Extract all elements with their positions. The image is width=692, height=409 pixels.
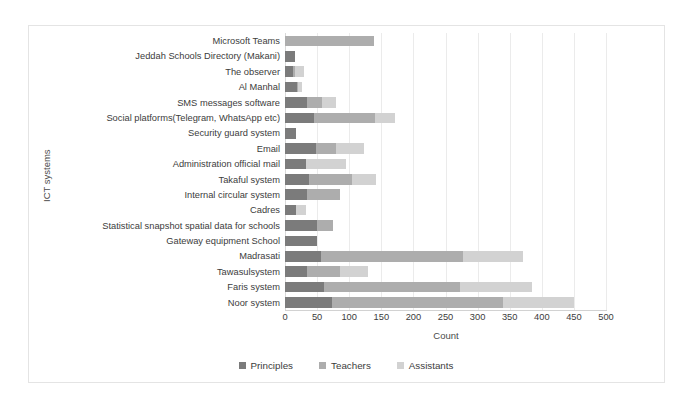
bar-segment[interactable] [285,189,307,200]
x-tick-label: 400 [534,312,550,322]
legend-item[interactable]: Assistants [397,360,454,371]
category-label: Email [257,141,280,157]
bar-segment[interactable] [309,174,352,185]
bar-segment[interactable] [285,36,374,47]
category-label: Social platforms(Telegram, WhatsApp etc) [106,110,280,126]
bar-segment[interactable] [316,143,337,154]
x-tick-label: 350 [502,312,518,322]
bar-segment[interactable] [285,251,321,262]
legend-swatch-icon [319,362,326,369]
bar-segment[interactable] [285,128,296,139]
bar-segment[interactable] [306,159,346,170]
bar-segment[interactable] [307,97,322,108]
bar-segment[interactable] [463,251,522,262]
legend-label: Principles [251,360,293,371]
bar-row[interactable] [285,202,606,218]
legend-swatch-icon [397,362,404,369]
bar-row[interactable] [285,248,606,264]
bar-row[interactable] [285,172,606,188]
legend-item[interactable]: Principles [239,360,293,371]
bar-row[interactable] [285,125,606,141]
bar-segment[interactable] [285,205,296,216]
bar-segment[interactable] [285,297,332,308]
x-tick-label: 200 [406,312,422,322]
category-label: The observer [225,64,280,80]
bar-row[interactable] [285,233,606,249]
x-tick-label: 50 [312,312,322,322]
bar-segment[interactable] [324,282,461,293]
legend-item[interactable]: Teachers [319,360,371,371]
bar-segment[interactable] [285,159,306,170]
bar-segment[interactable] [285,174,309,185]
bar-segment[interactable] [503,297,574,308]
category-label: Jeddah Schools Directory (Makani) [135,48,280,64]
bar-row[interactable] [285,264,606,280]
bar-segment[interactable] [285,220,317,231]
bar-segment[interactable] [336,143,364,154]
x-axis-ticks: 050100150200250300350400450500 [285,312,607,326]
category-label: Statistical snapshot spatial data for sc… [102,218,280,234]
bar-segment[interactable] [285,97,307,108]
category-label: Takaful system [219,172,280,188]
category-label: Madrasati [239,248,280,264]
bar-segment[interactable] [321,251,464,262]
bar-segment[interactable] [375,113,396,124]
bar-segment[interactable] [317,220,333,231]
category-label: Cadres [250,202,280,218]
category-label: Noor system [228,295,280,311]
y-axis-title-label: ICT systems [41,149,52,202]
x-axis-title: Count [285,330,607,341]
bar-segment[interactable] [285,236,317,247]
category-axis-labels: Microsoft TeamsJeddah Schools Directory … [60,33,280,310]
x-tick-label: 450 [566,312,582,322]
bar-row[interactable] [285,279,606,295]
bar-segment[interactable] [285,82,297,93]
bar-segment[interactable] [307,189,339,200]
bar-segment[interactable] [298,82,302,93]
legend-label: Assistants [409,360,454,371]
bar-row[interactable] [285,79,606,95]
bar-row[interactable] [285,95,606,111]
bar-segment[interactable] [295,66,305,77]
bar-row[interactable] [285,110,606,126]
bar-segment[interactable] [285,143,316,154]
bar-segment[interactable] [285,266,307,277]
x-axis-line [285,310,607,311]
y-axis-title: ICT systems [33,150,49,260]
bar-segment[interactable] [285,51,295,62]
bar-segment[interactable] [296,205,306,216]
bar-row[interactable] [285,48,606,64]
bar-row[interactable] [285,156,606,172]
bar-segment[interactable] [285,66,293,77]
bar-row[interactable] [285,64,606,80]
category-label: Microsoft Teams [212,33,280,49]
bar-segment[interactable] [352,174,375,185]
bar-segment[interactable] [340,266,369,277]
bar-segment[interactable] [332,297,503,308]
category-label: Al Manhal [239,79,280,95]
x-tick-label: 500 [598,312,614,322]
plot-area [285,33,606,310]
bar-segment[interactable] [322,97,336,108]
legend-swatch-icon [239,362,246,369]
bar-segment[interactable] [460,282,532,293]
bar-row[interactable] [285,187,606,203]
category-label: SMS messages software [177,95,280,111]
x-tick-label: 300 [470,312,486,322]
x-tick-label: 250 [438,312,454,322]
category-label: Faris system [227,279,280,295]
bar-row[interactable] [285,141,606,157]
bar-segment[interactable] [307,266,339,277]
gridline [606,33,607,310]
category-label: Security guard system [188,125,280,141]
bar-segment[interactable] [285,282,324,293]
bar-segment[interactable] [285,113,314,124]
category-label: Administration official mail [173,156,280,172]
bar-segment[interactable] [314,113,375,124]
bar-row[interactable] [285,295,606,311]
legend-label: Teachers [331,360,371,371]
category-label: Gateway equipment School [166,233,280,249]
category-label: Internal circular system [184,187,280,203]
bar-row[interactable] [285,218,606,234]
bar-row[interactable] [285,33,606,49]
